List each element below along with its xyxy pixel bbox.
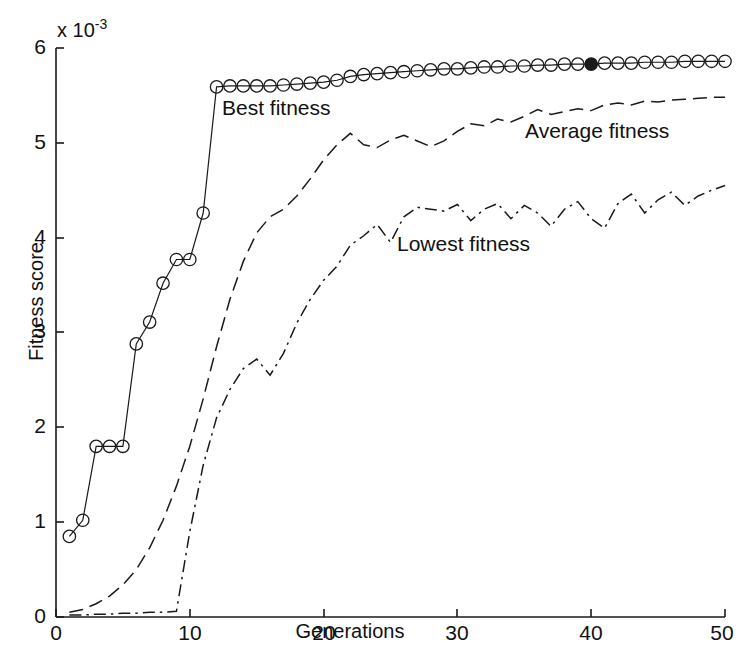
series-line-average-fitness <box>69 97 725 612</box>
fitness-evolution-chart: x 10-3 <box>0 0 738 653</box>
x-tick-label-10: 10 <box>170 621 210 645</box>
y-tick-label-2: 2 <box>20 414 46 438</box>
x-axis-ticks <box>56 609 725 617</box>
x-tick-label-0: 0 <box>36 621 76 645</box>
best-fitness-highlight-marker <box>585 58 597 70</box>
y-tick-label-6: 6 <box>20 35 46 59</box>
x-tick-label-50: 50 <box>702 621 738 645</box>
average-fitness-label: Average fitness <box>525 119 669 143</box>
y-tick-label-1: 1 <box>20 509 46 533</box>
y-axis-ticks <box>56 48 64 617</box>
x-axis-title: Generations <box>250 620 450 643</box>
plot-canvas <box>0 0 738 653</box>
best-fitness-label: Best fitness <box>222 96 331 120</box>
y-axis-title: Fitness score <box>25 222 48 382</box>
lowest-fitness-label: Lowest fitness <box>397 232 530 256</box>
y-tick-label-5: 5 <box>20 130 46 154</box>
x-tick-label-40: 40 <box>571 621 611 645</box>
